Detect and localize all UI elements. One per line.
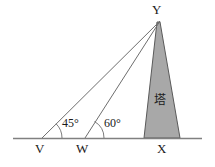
tower-character-label: 塔 bbox=[154, 94, 166, 106]
sight-line-v-to-y bbox=[42, 21, 160, 138]
geometry-canvas bbox=[0, 0, 215, 167]
angle-label-60: 60° bbox=[104, 117, 121, 129]
angle-arc-60 bbox=[95, 122, 105, 139]
vertex-label-w: W bbox=[76, 142, 88, 155]
tower-shape bbox=[144, 22, 180, 138]
angle-label-45: 45° bbox=[62, 117, 79, 129]
geometry-figure: Y V W X 45° 60° 塔 bbox=[0, 0, 215, 167]
vertex-label-v: V bbox=[35, 142, 44, 155]
vertex-label-y: Y bbox=[152, 3, 161, 16]
vertex-label-x: X bbox=[157, 142, 166, 155]
